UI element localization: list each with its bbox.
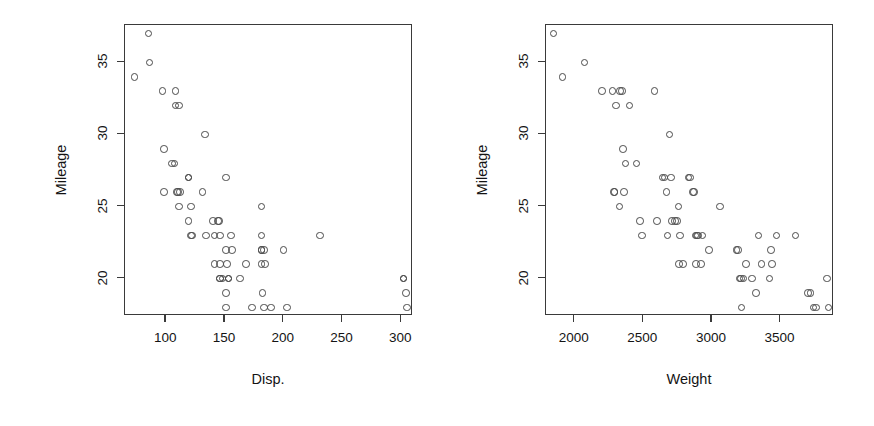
data-point bbox=[216, 232, 224, 240]
data-point bbox=[622, 160, 630, 168]
data-point bbox=[260, 246, 268, 254]
y-axis-tick bbox=[538, 61, 545, 62]
data-point bbox=[248, 304, 256, 312]
data-point bbox=[748, 275, 756, 283]
y-axis-tick bbox=[117, 61, 124, 62]
data-point bbox=[638, 232, 646, 240]
data-point bbox=[611, 188, 619, 196]
data-point bbox=[636, 217, 644, 225]
data-point bbox=[742, 260, 750, 268]
data-point bbox=[812, 304, 820, 312]
x-axis-tick-label: 3500 bbox=[764, 331, 794, 345]
data-point bbox=[598, 87, 606, 95]
x-axis-tick-label: 200 bbox=[271, 331, 294, 345]
x-axis-tick bbox=[642, 315, 643, 322]
data-point bbox=[581, 59, 589, 67]
data-point bbox=[259, 289, 267, 297]
x-axis-tick bbox=[779, 315, 780, 322]
x-axis-tick-label: 100 bbox=[154, 331, 177, 345]
data-point bbox=[609, 87, 617, 95]
data-point bbox=[227, 232, 235, 240]
y-axis-tick-label: 25 bbox=[517, 198, 531, 213]
y-axis-title-weight: Mileage bbox=[475, 144, 490, 195]
data-point bbox=[550, 30, 558, 38]
data-point bbox=[768, 260, 776, 268]
data-point bbox=[222, 304, 230, 312]
data-point bbox=[663, 188, 671, 196]
data-point bbox=[716, 203, 724, 211]
y-axis-tick bbox=[538, 277, 545, 278]
y-axis-tick-label: 30 bbox=[517, 126, 531, 141]
x-axis-tick-label: 150 bbox=[213, 331, 236, 345]
x-axis-title-weight: Weight bbox=[667, 372, 712, 387]
data-point bbox=[676, 232, 684, 240]
data-point bbox=[187, 203, 195, 211]
scatter-plot-figure: 10015020025030020253035 Disp. Mileage 20… bbox=[0, 0, 874, 426]
data-point bbox=[738, 304, 746, 312]
data-point bbox=[767, 246, 775, 254]
data-point bbox=[686, 174, 694, 182]
data-point bbox=[619, 145, 627, 153]
data-point bbox=[199, 188, 207, 196]
x-axis-tick-label: 2000 bbox=[559, 331, 589, 345]
data-point bbox=[633, 160, 641, 168]
data-point bbox=[316, 232, 324, 240]
data-point bbox=[131, 73, 139, 81]
data-point bbox=[242, 260, 250, 268]
plot-frame-weight bbox=[545, 24, 833, 315]
data-point bbox=[176, 188, 184, 196]
y-axis-tick-label: 35 bbox=[96, 54, 110, 69]
data-point bbox=[626, 102, 634, 110]
y-axis-tick-label: 20 bbox=[517, 270, 531, 285]
data-point bbox=[403, 304, 411, 312]
data-point bbox=[225, 275, 233, 283]
data-point bbox=[175, 102, 183, 110]
data-point bbox=[673, 217, 681, 225]
data-point bbox=[664, 232, 672, 240]
y-axis-tick bbox=[538, 133, 545, 134]
data-point bbox=[188, 232, 196, 240]
data-point bbox=[699, 232, 707, 240]
data-point bbox=[758, 260, 766, 268]
data-point bbox=[752, 289, 760, 297]
y-axis-title-disp: Mileage bbox=[54, 144, 69, 195]
data-point bbox=[734, 246, 742, 254]
data-point bbox=[559, 73, 567, 81]
data-point bbox=[223, 260, 231, 268]
data-point bbox=[222, 174, 230, 182]
data-point bbox=[202, 232, 210, 240]
y-axis-tick-label: 35 bbox=[517, 54, 531, 69]
data-point bbox=[258, 203, 266, 211]
data-point bbox=[201, 131, 209, 139]
data-points-disp bbox=[125, 25, 411, 314]
data-point bbox=[400, 275, 408, 283]
data-point bbox=[171, 160, 179, 168]
data-point bbox=[690, 188, 698, 196]
x-axis-tick-label: 300 bbox=[389, 331, 412, 345]
y-axis-tick bbox=[117, 277, 124, 278]
x-axis-tick bbox=[573, 315, 574, 322]
data-point bbox=[185, 217, 193, 225]
x-axis-tick bbox=[223, 315, 224, 322]
data-point bbox=[651, 87, 659, 95]
data-point bbox=[215, 217, 223, 225]
data-point bbox=[823, 275, 831, 283]
data-point bbox=[697, 260, 705, 268]
data-point bbox=[618, 87, 626, 95]
panel-mileage-vs-weight: 200025003000350020253035 Weight Mileage bbox=[437, 0, 874, 426]
data-point bbox=[159, 87, 167, 95]
x-axis-tick bbox=[710, 315, 711, 322]
data-point bbox=[667, 174, 675, 182]
y-axis-tick-label: 20 bbox=[96, 270, 110, 285]
x-axis-tick bbox=[282, 315, 283, 322]
y-axis-tick-label: 30 bbox=[96, 126, 110, 141]
data-point bbox=[267, 304, 275, 312]
data-point bbox=[740, 275, 748, 283]
data-point bbox=[792, 232, 800, 240]
data-point bbox=[679, 260, 687, 268]
plot-frame-disp bbox=[124, 24, 412, 315]
data-point bbox=[175, 203, 183, 211]
data-point bbox=[222, 289, 230, 297]
data-point bbox=[755, 232, 763, 240]
y-axis-tick-label: 25 bbox=[96, 198, 110, 213]
